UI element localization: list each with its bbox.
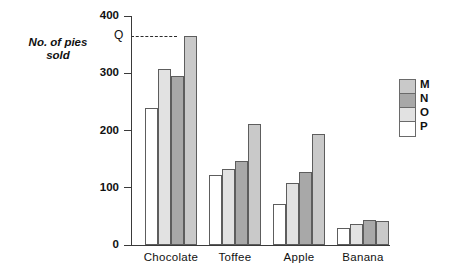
y-tick-label: 200 bbox=[89, 124, 119, 136]
bar-toffee-o bbox=[222, 169, 235, 245]
legend-swatch-o bbox=[400, 108, 415, 122]
bar-chocolate-n bbox=[171, 76, 184, 245]
bar-toffee-p bbox=[209, 175, 222, 245]
category-label-banana: Banana bbox=[327, 251, 399, 263]
y-tick-label: 100 bbox=[89, 181, 119, 193]
legend-label-o: O bbox=[420, 106, 429, 118]
y-tick-mark bbox=[124, 16, 132, 17]
y-tick-mark bbox=[124, 73, 132, 74]
legend-label-p: P bbox=[420, 120, 428, 132]
y-tick-label: 400 bbox=[89, 9, 119, 21]
y-axis-line bbox=[131, 16, 132, 246]
bar-apple-p bbox=[273, 204, 286, 245]
legend-swatch-p bbox=[400, 122, 415, 136]
bar-banana-n bbox=[363, 220, 376, 245]
category-label-apple: Apple bbox=[263, 251, 335, 263]
q-annotation-label: Q bbox=[114, 28, 123, 42]
y-tick-mark bbox=[124, 130, 132, 131]
bar-banana-p bbox=[337, 228, 350, 245]
bar-apple-n bbox=[299, 172, 312, 245]
bar-banana-o bbox=[350, 224, 363, 245]
y-tick-label: 0 bbox=[89, 238, 119, 250]
y-tick-mark bbox=[124, 187, 132, 188]
bar-chocolate-o bbox=[158, 69, 171, 245]
bar-apple-o bbox=[286, 183, 299, 245]
legend-label-n: N bbox=[420, 92, 428, 104]
y-axis-title: No. of pies sold bbox=[6, 36, 110, 62]
bar-banana-m bbox=[376, 221, 389, 245]
bar-chocolate-m bbox=[184, 36, 197, 245]
legend-swatches bbox=[399, 79, 416, 137]
legend-swatch-m bbox=[400, 80, 415, 94]
bar-toffee-m bbox=[248, 124, 261, 245]
category-label-chocolate: Chocolate bbox=[135, 251, 207, 263]
bar-apple-m bbox=[312, 134, 325, 245]
y-tick-label: 300 bbox=[89, 66, 119, 78]
category-label-toffee: Toffee bbox=[199, 251, 271, 263]
bar-chocolate-p bbox=[145, 108, 158, 245]
q-reference-line bbox=[131, 36, 177, 37]
bar-chart: No. of pies sold Q 0100200300400 Chocola… bbox=[0, 0, 453, 278]
y-tick-mark bbox=[124, 245, 132, 246]
legend-swatch-n bbox=[400, 94, 415, 108]
bar-toffee-n bbox=[235, 161, 248, 245]
x-axis-line bbox=[131, 245, 390, 246]
legend-label-m: M bbox=[420, 78, 430, 90]
